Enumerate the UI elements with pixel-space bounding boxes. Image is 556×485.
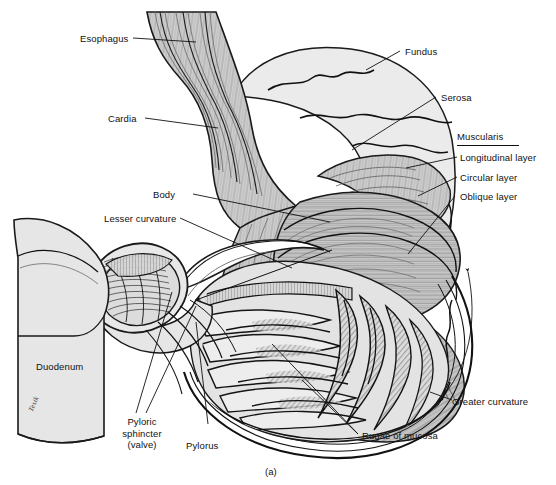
label-lesser-curvature: Lesser curvature xyxy=(104,213,176,225)
label-esophagus: Esophagus xyxy=(80,33,128,45)
label-serosa: Serosa xyxy=(441,92,472,104)
figure-caption: (a) xyxy=(265,466,277,477)
label-rugae-of-mucosa: Rugae of mucosa xyxy=(362,430,438,442)
label-pyloric-sphincter: Pyloric sphincter (valve) xyxy=(106,416,178,451)
label-circular-layer: Circular layer xyxy=(460,172,517,184)
label-greater-curvature: Greater curvature xyxy=(452,396,528,408)
figure-stomach-anatomy: Esophagus Cardia Fundus Serosa Musculari… xyxy=(0,0,556,485)
label-pylorus: Pylorus xyxy=(186,440,218,452)
label-longitudinal-layer: Longitudinal layer xyxy=(460,152,536,164)
label-fundus: Fundus xyxy=(405,46,437,58)
muscularis-underline xyxy=(457,145,519,146)
label-body: Body xyxy=(153,189,175,201)
label-cardia: Cardia xyxy=(108,113,137,125)
stomach-illustration xyxy=(0,0,556,485)
label-oblique-layer: Oblique layer xyxy=(460,191,517,203)
label-muscularis-heading: Muscularis xyxy=(457,131,503,143)
label-duodenum: Duodenum xyxy=(36,361,83,373)
